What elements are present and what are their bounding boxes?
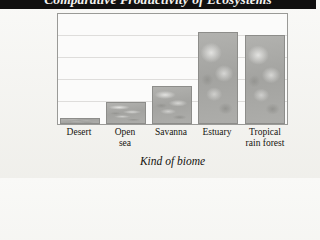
bar-tropical-rain-forest <box>245 35 285 124</box>
x-tick-open-sea-line-1: Open <box>99 127 151 138</box>
bar-savanna <box>152 86 192 124</box>
x-tick-savanna: Savanna <box>145 127 197 138</box>
page-title: Comparative Productivity of Ecosystems <box>0 0 316 9</box>
x-tick-open-sea-line-2: sea <box>99 138 151 149</box>
x-tick-tropical-rain-forest-line-2: rain forest <box>238 138 292 149</box>
x-tick-desert-line-1: Desert <box>53 127 105 138</box>
x-axis-tick-labels: Desert Open sea Savanna Estuary Tropical… <box>57 127 288 153</box>
x-tick-estuary: Estuary <box>191 127 243 138</box>
bars-layer <box>58 14 287 124</box>
x-tick-tropical-rain-forest: Tropical rain forest <box>238 127 292 149</box>
x-tick-savanna-line-1: Savanna <box>145 127 197 138</box>
bar-open-sea <box>106 102 146 124</box>
bar-desert <box>60 118 100 124</box>
x-tick-estuary-line-1: Estuary <box>191 127 243 138</box>
x-tick-tropical-rain-forest-line-1: Tropical <box>238 127 292 138</box>
plot-area <box>57 13 288 125</box>
x-tick-desert: Desert <box>53 127 105 138</box>
bar-estuary <box>198 32 238 124</box>
chart-title-banner: Comparative Productivity of Ecosystems <box>0 0 316 9</box>
x-tick-open-sea: Open sea <box>99 127 151 149</box>
x-axis-label: Kind of biome <box>57 155 288 167</box>
